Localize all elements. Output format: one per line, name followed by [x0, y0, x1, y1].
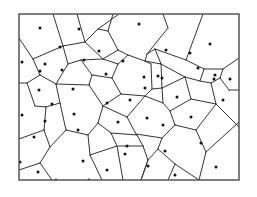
voronoi-canvas: [0, 0, 257, 197]
voronoi-site-dot: [44, 63, 47, 66]
voronoi-site-dot: [124, 153, 127, 156]
voronoi-site-dot: [126, 145, 129, 148]
voronoi-diagram: [0, 0, 257, 197]
voronoi-site-dot: [37, 171, 40, 174]
voronoi-site-dot: [77, 129, 80, 132]
voronoi-site-dot: [39, 27, 42, 30]
voronoi-site-dot: [215, 166, 218, 169]
voronoi-site-dot: [146, 117, 149, 120]
voronoi-site-dot: [44, 120, 47, 123]
voronoi-site-dot: [129, 99, 132, 102]
voronoi-site-dot: [157, 75, 160, 78]
voronoi-site-dot: [38, 89, 41, 92]
voronoi-site-dot: [51, 103, 54, 106]
voronoi-site-dot: [138, 23, 141, 26]
voronoi-site-dot: [197, 67, 200, 70]
voronoi-site-dot: [190, 116, 193, 119]
voronoi-site-dot: [61, 69, 64, 72]
voronoi-site-dot: [82, 160, 85, 163]
voronoi-site-dot: [174, 174, 177, 177]
voronoi-site-dot: [229, 78, 232, 81]
voronoi-site-dot: [83, 59, 86, 62]
voronoi-site-dot: [165, 49, 168, 52]
voronoi-site-dot: [122, 60, 125, 63]
voronoi-site-dot: [162, 124, 165, 127]
voronoi-site-dot: [214, 74, 217, 77]
voronoi-site-dot: [78, 28, 81, 31]
voronoi-site-dot: [73, 113, 76, 116]
voronoi-site-dot: [209, 43, 212, 46]
voronoi-site-dot: [39, 70, 42, 73]
voronoi-site-dot: [189, 52, 192, 55]
voronoi-site-dot: [213, 78, 216, 81]
voronoi-site-dot: [147, 165, 150, 168]
voronoi-site-dot: [200, 142, 203, 145]
voronoi-site-dot: [72, 88, 75, 91]
voronoi-site-dot: [176, 96, 179, 99]
voronoi-site-dot: [105, 73, 108, 76]
voronoi-site-dot: [33, 136, 36, 139]
voronoi-site-dot: [144, 87, 147, 90]
voronoi-site-dot: [106, 169, 109, 172]
voronoi-site-dot: [106, 102, 109, 105]
voronoi-site-dot: [164, 150, 167, 153]
voronoi-site-dot: [143, 76, 146, 79]
voronoi-site-dot: [59, 46, 62, 49]
voronoi-site-dot: [161, 77, 164, 80]
voronoi-site-dot: [21, 61, 24, 64]
voronoi-site-dot: [98, 50, 101, 53]
voronoi-site-dot: [117, 121, 120, 124]
voronoi-site-dot: [222, 99, 225, 102]
background: [0, 0, 257, 197]
voronoi-site-dot: [21, 114, 24, 117]
